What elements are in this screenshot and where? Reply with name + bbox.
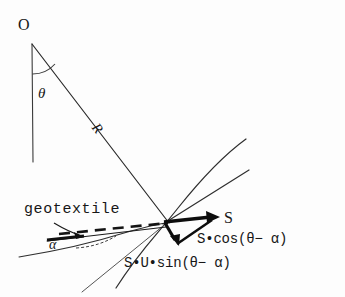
geotextile-label: geotextile [24, 202, 120, 217]
radius-line [32, 44, 169, 223]
force-s-cos-label: S•cos(θ− α) [197, 232, 287, 246]
figure-canvas: O θ R geotextile α S S•cos(θ− α) S•U•sin… [0, 0, 345, 297]
force-s-label: S [224, 210, 233, 226]
theta-angle-label: θ [38, 86, 45, 101]
diagram-svg [0, 0, 345, 297]
alpha-angle-label: α [49, 238, 56, 252]
center-point-label: O [18, 17, 30, 33]
vertical-reference-line [32, 44, 33, 162]
ground-surface-curve [19, 223, 166, 257]
alpha-angle-arc [76, 236, 116, 248]
force-s-u-sin-label: S•U•sin(θ− α) [124, 256, 231, 270]
